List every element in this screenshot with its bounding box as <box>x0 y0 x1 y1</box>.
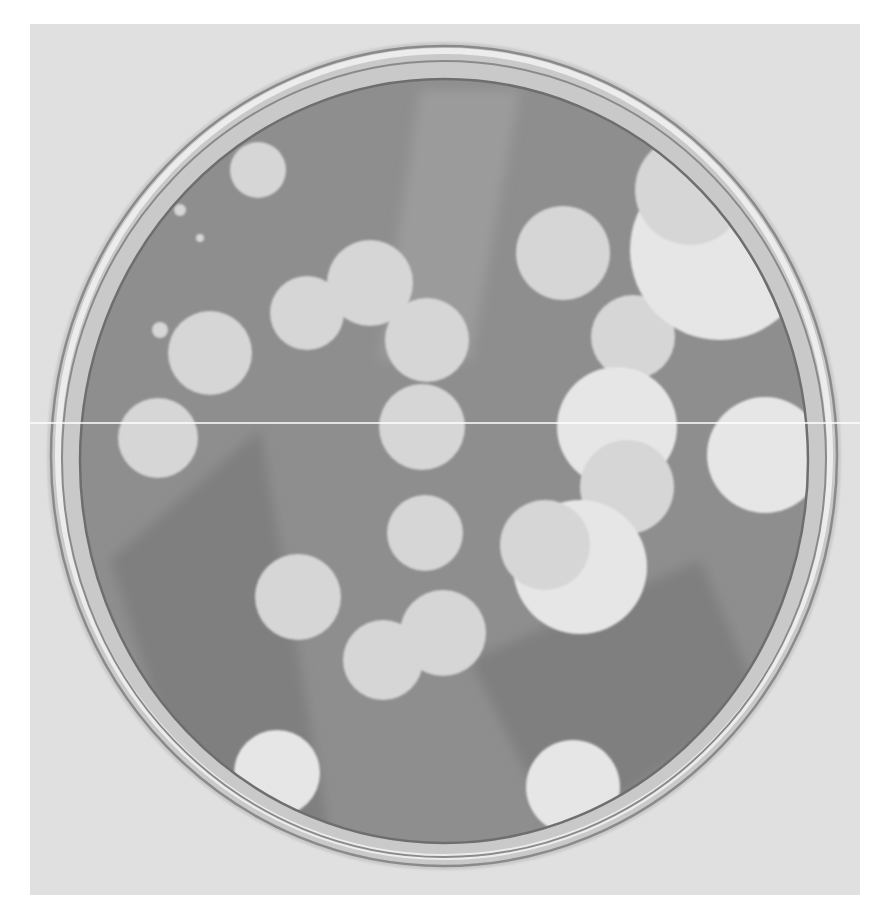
photo-stage <box>0 0 893 924</box>
plaque <box>152 322 168 338</box>
plaque <box>400 590 486 676</box>
plaque <box>174 204 186 216</box>
plaque <box>387 495 463 571</box>
plaque <box>118 398 198 478</box>
petri-dish-photo <box>0 0 893 924</box>
plaque <box>379 384 465 470</box>
plaque <box>230 142 286 198</box>
plaque <box>385 298 469 382</box>
plaque <box>168 311 252 395</box>
plaque <box>196 234 204 242</box>
plaque <box>516 206 610 300</box>
plaque <box>500 500 590 590</box>
plaque <box>255 554 341 640</box>
